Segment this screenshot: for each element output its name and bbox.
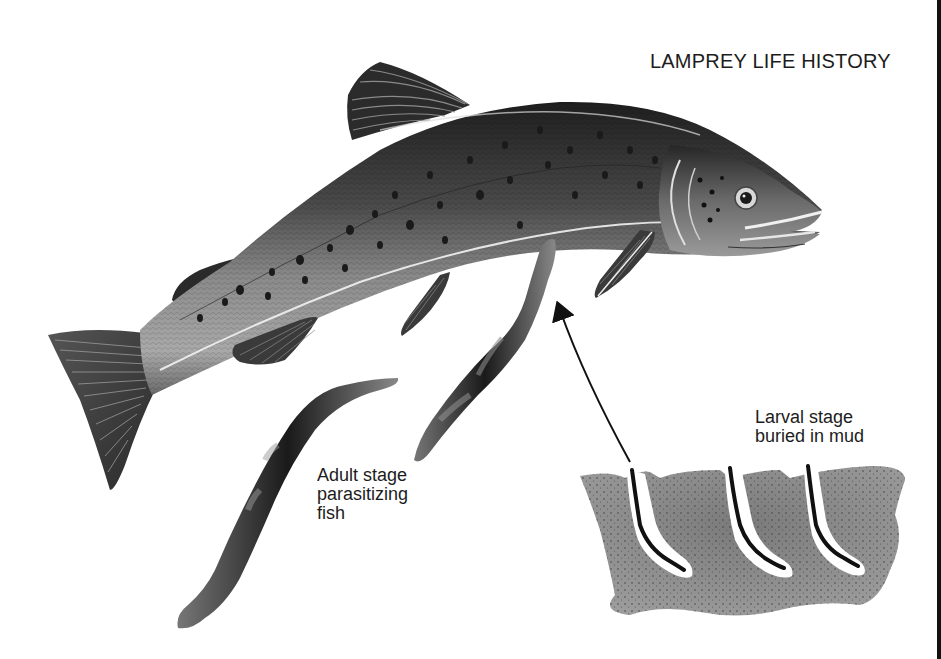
adult-label-line-1: Adult stage [317, 466, 408, 485]
mud-cross-section [580, 466, 905, 616]
larval-stage-label: Larval stage buried in mud [755, 408, 864, 446]
figure-title: LAMPREY LIFE HISTORY [650, 50, 891, 73]
illustration [0, 0, 941, 659]
adult-label-line-2: parasitizing [317, 485, 408, 504]
fish-head [659, 145, 822, 256]
adult-label-line-3: fish [317, 504, 408, 523]
adult-stage-label: Adult stage parasitizing fish [317, 466, 408, 523]
lamprey-life-history-figure: LAMPREY LIFE HISTORY Adult stage parasit… [0, 0, 941, 659]
larval-label-line-1: Larval stage [755, 408, 864, 427]
scan-edge-border [937, 0, 941, 659]
larval-label-line-2: buried in mud [755, 427, 864, 446]
lifecycle-arrow [560, 310, 630, 462]
tail-fin [48, 330, 155, 490]
